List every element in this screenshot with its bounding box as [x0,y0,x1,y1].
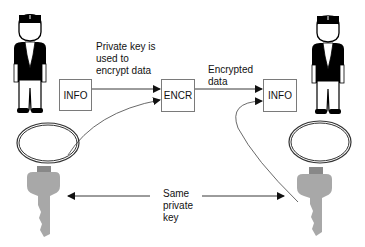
info-dest-label: INFO [268,90,292,101]
encr-label: ENCR [164,90,192,101]
receiver-key-icon [289,121,351,236]
info-source-label: INFO [64,90,88,101]
info-dest-node: INFO [263,79,297,112]
encrypted-data-annotation: Encrypted data [208,64,253,88]
info-source-node: INFO [59,79,92,111]
same-private-key-annotation: Same private key [163,188,193,224]
sender-person-icon [14,14,46,113]
encr-node: ENCR [161,79,195,112]
receiver-person-icon [312,16,344,114]
edge-receiver-key-to-info [236,101,298,202]
sender-key-icon [17,123,79,237]
private-key-used-annotation: Private key is used to encrypt data [96,41,155,77]
